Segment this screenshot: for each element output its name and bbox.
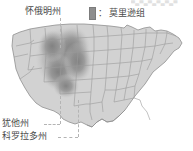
leader-line-utah-horizontal — [44, 124, 60, 125]
morrison-formation-map-figure: ▀▄▀▄▀▄▀▄▀▄▀ — [0, 0, 193, 151]
map-legend: ： 莫里逊组 — [89, 7, 145, 20]
formation-swatch-icon — [89, 7, 96, 20]
state-label-utah: 犹他州 — [2, 118, 29, 129]
leader-line-utah-vertical — [60, 96, 61, 124]
legend-label-morrison-formation: 莫里逊组 — [109, 8, 145, 19]
leader-line-colorado-horizontal — [58, 137, 78, 138]
leader-line-colorado-vertical — [78, 100, 79, 137]
legend-separator: ： — [98, 8, 107, 19]
state-label-colorado: 科罗拉多州 — [2, 131, 47, 142]
map-landmass — [12, 24, 182, 127]
leader-line-wyoming — [60, 18, 61, 48]
state-label-wyoming: 怀俄明州 — [25, 6, 61, 17]
